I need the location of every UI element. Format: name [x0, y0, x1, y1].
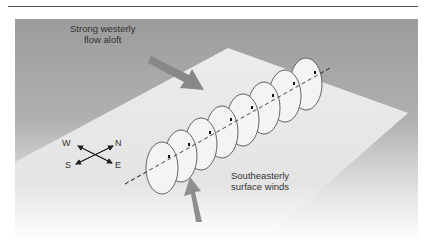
compass-east-label: E: [115, 160, 121, 170]
compass-south-label: S: [65, 160, 71, 170]
southeasterly-winds-label: Southeasterly surface winds: [231, 170, 289, 192]
southeasterly-winds-label-line1: Southeasterly: [231, 170, 289, 181]
compass-west-label: W: [62, 138, 71, 148]
westerly-flow-label-line2: flow aloft: [70, 34, 135, 45]
southeasterly-winds-label-line2: surface winds: [231, 181, 289, 192]
compass-north-label: N: [115, 138, 122, 148]
westerly-flow-label-line1: Strong westerly: [70, 23, 135, 34]
vortex-ring: [146, 142, 178, 194]
westerly-flow-label: Strong westerly flow aloft: [70, 23, 135, 45]
diagram-canvas: [0, 0, 429, 241]
